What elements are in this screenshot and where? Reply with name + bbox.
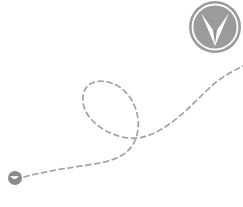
dashed-route-path [24, 66, 243, 177]
arrow-v-logo-icon [189, 1, 241, 53]
start-point-icon [8, 171, 22, 185]
route-illustration [0, 0, 243, 207]
